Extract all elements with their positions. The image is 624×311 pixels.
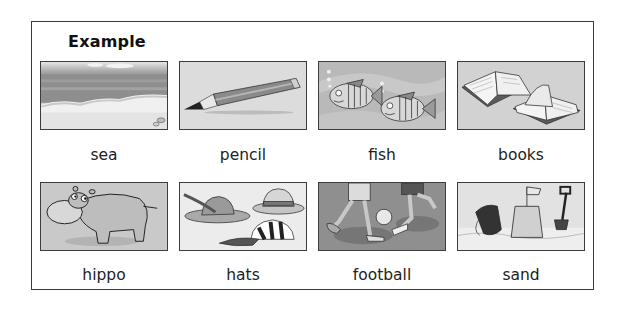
item-books — [457, 61, 585, 130]
sea-beach-picture-icon — [40, 61, 168, 130]
hippo-picture-icon — [40, 182, 168, 251]
pencil-picture-icon — [179, 61, 307, 130]
label-hats: hats — [179, 266, 307, 284]
item-sand — [457, 182, 585, 251]
item-hats — [179, 182, 307, 251]
item-football — [318, 182, 446, 251]
label-books: books — [457, 146, 585, 164]
label-sand: sand — [457, 266, 585, 284]
books-picture-icon — [457, 61, 585, 130]
label-fish: fish — [318, 146, 446, 164]
item-fish — [318, 61, 446, 130]
fish-picture-icon — [318, 61, 446, 130]
item-sea — [40, 61, 168, 130]
sandcastle-picture-icon — [457, 182, 585, 251]
hats-picture-icon — [179, 182, 307, 251]
example-heading: Example — [68, 32, 146, 51]
item-hippo — [40, 182, 168, 251]
label-sea: sea — [40, 146, 168, 164]
label-hippo: hippo — [40, 266, 168, 284]
football-picture-icon — [318, 182, 446, 251]
item-pencil — [179, 61, 307, 130]
label-football: football — [318, 266, 446, 284]
label-pencil: pencil — [179, 146, 307, 164]
